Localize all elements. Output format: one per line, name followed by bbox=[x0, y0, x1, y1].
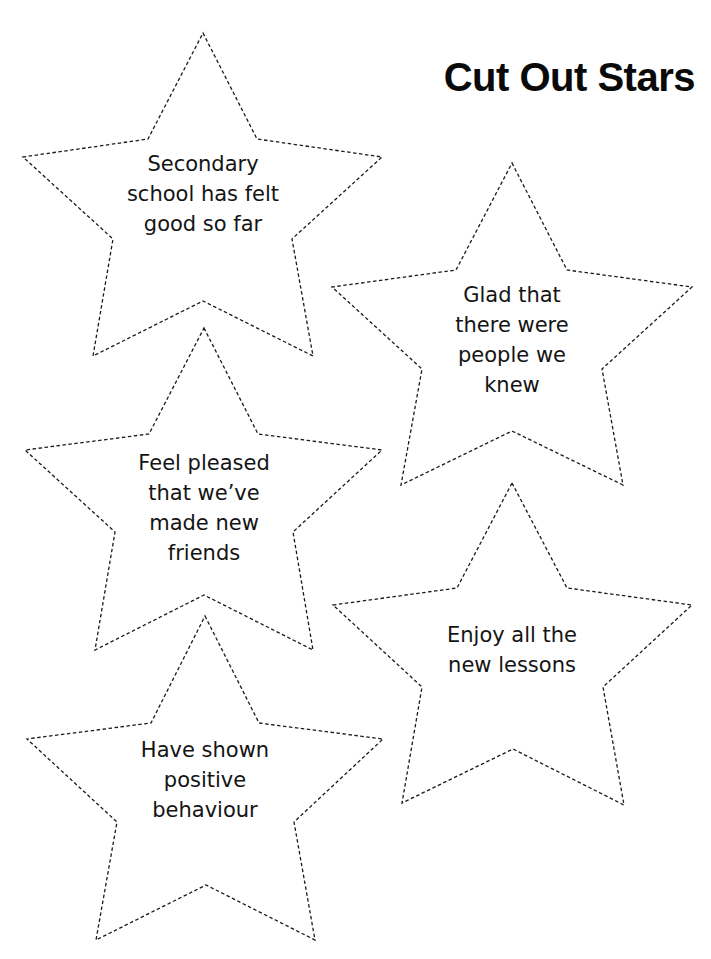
star-label-3: Feel pleased that we’ve made new friends bbox=[138, 448, 269, 568]
star-label-4: Enjoy all the new lessons bbox=[447, 620, 577, 680]
star-label-5: Have shown positive behaviour bbox=[141, 735, 269, 825]
star-label-1: Secondary school has felt good so far bbox=[127, 149, 279, 239]
stars-canvas bbox=[0, 0, 711, 959]
star-label-2: Glad that there were people we knew bbox=[455, 280, 568, 400]
